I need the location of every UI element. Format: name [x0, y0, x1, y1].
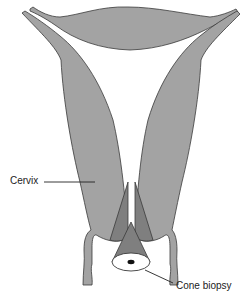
left-uterine-wall	[22, 11, 128, 285]
cervix-label: Cervix	[10, 176, 38, 186]
uterus-cervix-diagram	[0, 0, 247, 296]
cone-biopsy-leader-line	[145, 270, 173, 283]
right-uterine-wall	[135, 11, 240, 285]
cervical-os-icon	[128, 260, 135, 264]
cone-biopsy-label: Cone biopsy	[176, 281, 232, 291]
